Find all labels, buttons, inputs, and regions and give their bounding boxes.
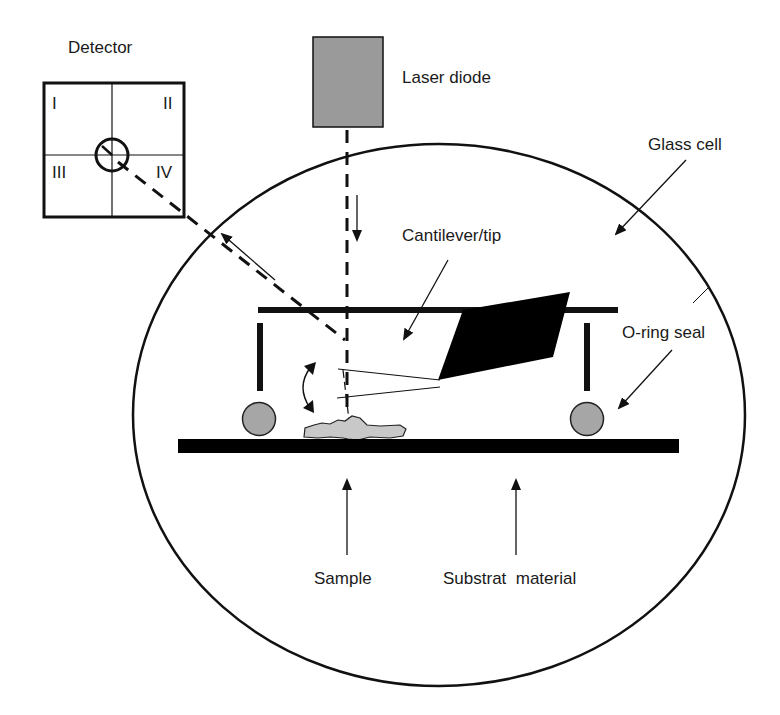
quadrant-I: I [52, 94, 57, 113]
quadrant-IV: IV [156, 163, 173, 182]
detector-label: Detector [68, 38, 133, 57]
substrate-bar [178, 439, 679, 453]
glass-cell-label: Glass cell [648, 135, 722, 154]
quadrant-II: II [163, 94, 172, 113]
o-ring-left [243, 403, 276, 436]
cantilever-arm-lower [337, 387, 440, 398]
cantilever-chip [438, 292, 570, 380]
laser-diode-label: Laser diode [402, 68, 491, 87]
afm-diagram: Detector I II III IV Laser diode Glass c… [0, 0, 780, 715]
o-ring-label-tick [693, 288, 708, 303]
quadrant-III: III [52, 163, 66, 182]
holder-leg-right [584, 323, 590, 391]
substrate-label: Substrat material [443, 569, 576, 588]
o-ring-right [571, 403, 604, 436]
reflected-beam [118, 162, 345, 340]
o-ring-pointer-arrow [619, 350, 672, 408]
glass-cell-pointer-arrow [616, 160, 686, 234]
oscillation-arrow-icon [303, 368, 310, 408]
holder-leg-left [257, 323, 263, 391]
cantilever-pointer-arrow [404, 260, 448, 339]
laser-diode [313, 37, 383, 127]
cantilever-label: Cantilever/tip [402, 226, 501, 245]
sample [304, 416, 406, 440]
reflected-direction-arrow [222, 234, 275, 280]
o-ring-label: O-ring seal [622, 323, 705, 342]
cantilever-arm-upper [338, 369, 440, 380]
sample-label: Sample [314, 569, 372, 588]
